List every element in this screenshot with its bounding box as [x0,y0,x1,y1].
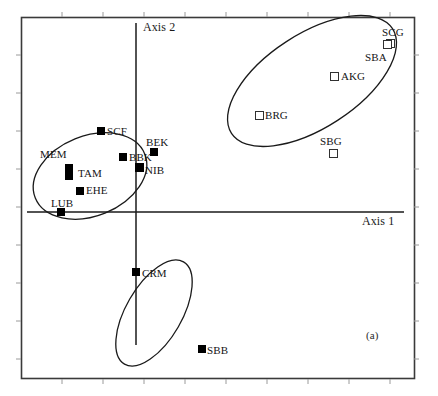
data-point-scf [97,127,105,135]
data-point-mem [65,164,73,172]
figure-container: Axis 2 Axis 1 (a) SCF BBK BEK NIB MEM TA… [0,0,438,396]
point-label-bbk: BBK [129,152,152,163]
point-label-brg: BRG [265,110,288,121]
point-label-lub: LUB [51,198,73,209]
tick-marks-bottom [62,379,390,384]
data-point-ehe [76,187,84,195]
data-point-nib [135,163,144,172]
point-label-ehe: EHE [86,185,108,196]
point-label-sba: SBA [365,52,387,63]
point-label-scf: SCF [107,126,127,137]
data-point-bbk [119,153,127,161]
point-label-crm: CRM [142,268,167,279]
point-label-nib: NIB [145,165,164,176]
tick-marks-top [62,12,390,17]
point-label-sbg: SBG [320,136,342,147]
point-label-scg: SCG [382,27,404,38]
data-point-lub [57,208,65,216]
data-point-sba [384,41,392,49]
tick-marks-left [16,55,21,359]
data-point-crm [132,268,140,276]
data-point-brg [256,112,264,120]
data-point-akg [331,73,339,81]
panel-label: (a) [366,330,379,341]
point-label-mem: MEM [40,149,67,160]
point-label-akg: AKG [341,71,365,82]
point-label-bek: BEK [146,137,168,148]
data-point-sbg [330,150,338,158]
axis-x-label: Axis 1 [362,216,394,227]
point-label-tam: TAM [78,168,102,179]
axis-y-label: Axis 2 [143,22,175,33]
point-label-sbb: SBB [207,345,228,356]
data-point-tam [65,171,73,180]
data-point-sbb [198,345,206,353]
